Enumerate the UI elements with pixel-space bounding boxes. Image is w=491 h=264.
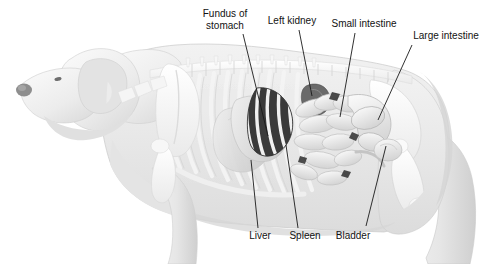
label-large-intestine-line-1: Large intestine <box>407 30 485 42</box>
label-left-kidney: Left kidney <box>262 15 322 27</box>
nose-highlight <box>18 85 26 91</box>
shoulder-joint <box>151 139 169 153</box>
label-small-intestine: Small intestine <box>326 18 402 30</box>
label-small-intestine-line-1: Small intestine <box>326 18 402 30</box>
organ-bladder <box>374 139 402 161</box>
label-left-kidney-line-1: Left kidney <box>262 15 322 27</box>
label-fundus-of-stomach-line-1: Fundus of <box>192 8 258 20</box>
label-bladder: Bladder <box>331 230 375 242</box>
label-large-intestine: Large intestine <box>407 30 485 42</box>
anatomy-figure: Fundus ofstomachLeft kidneySmall intesti… <box>0 0 491 264</box>
label-spleen: Spleen <box>285 230 325 242</box>
label-spleen-line-1: Spleen <box>285 230 325 242</box>
label-fundus-of-stomach-line-2: stomach <box>192 20 258 32</box>
label-bladder-line-1: Bladder <box>331 230 375 242</box>
label-fundus-of-stomach: Fundus ofstomach <box>192 8 258 32</box>
label-liver-line-1: Liver <box>245 230 275 242</box>
label-liver: Liver <box>245 230 275 242</box>
